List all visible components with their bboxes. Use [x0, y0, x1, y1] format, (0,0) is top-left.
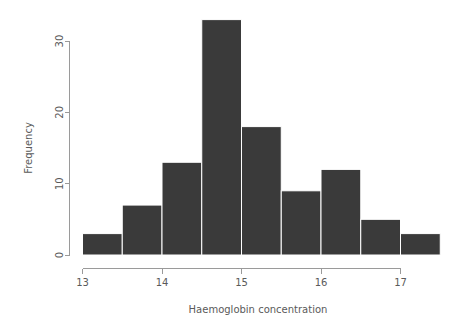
y-tick-label: 20 [54, 106, 65, 119]
y-axis-title: Frequency [23, 122, 34, 174]
y-tick-label: 10 [54, 177, 65, 190]
y-axis: 30 20 10 0 [54, 35, 70, 259]
x-tick-label: 15 [235, 277, 248, 288]
histogram-canvas: 30 20 10 0 13 14 15 16 17 Frequency Haem… [0, 0, 455, 330]
histogram-plot: 30 20 10 0 13 14 15 16 17 Frequency Haem… [0, 0, 455, 330]
histogram-bar [242, 127, 282, 255]
histogram-bar [361, 219, 401, 255]
histogram-bar [83, 234, 123, 255]
y-tick-label: 0 [54, 252, 65, 258]
histogram-bar [401, 234, 441, 255]
x-tick-label: 13 [76, 277, 89, 288]
histogram-bar [202, 20, 242, 255]
x-axis: 13 14 15 16 17 [76, 269, 407, 289]
histogram-bar [162, 162, 202, 255]
histogram-bar [321, 169, 361, 255]
histogram-bar [281, 191, 321, 255]
y-tick-label: 30 [54, 35, 65, 48]
x-tick-label: 14 [156, 277, 169, 288]
x-axis-title: Haemoglobin concentration [189, 304, 328, 315]
bars-group [83, 20, 441, 255]
histogram-bar [122, 205, 162, 255]
x-tick-label: 16 [315, 277, 328, 288]
x-tick-label: 17 [394, 277, 407, 288]
